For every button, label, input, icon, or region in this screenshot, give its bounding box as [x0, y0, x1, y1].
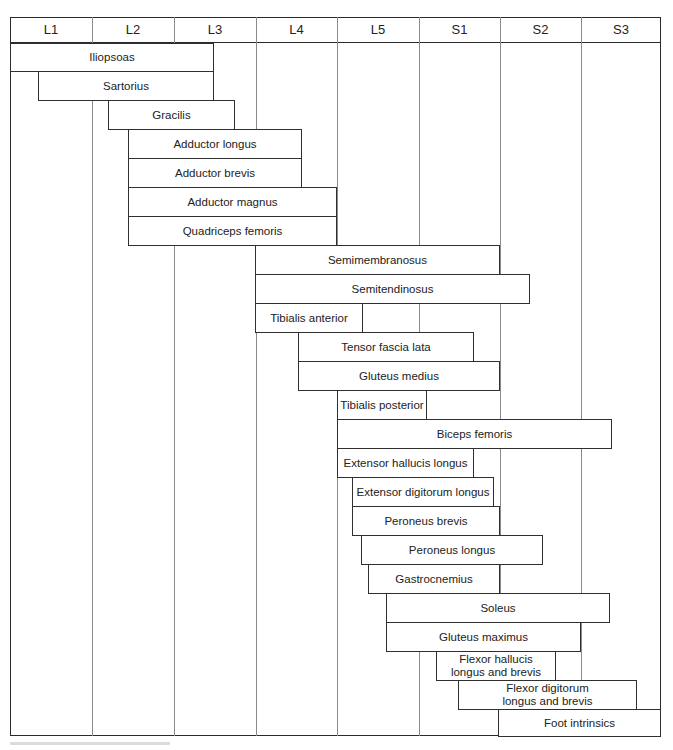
header-cell-s3: S3 [581, 17, 661, 43]
grid-line [256, 17, 257, 736]
muscle-label: Flexor digitorum longus and brevis [502, 682, 592, 708]
muscle-bar: Tibialis posterior [337, 390, 427, 420]
muscle-bar: Adductor longus [128, 129, 302, 159]
muscle-bar: Adductor brevis [128, 158, 302, 188]
muscle-label: Sartorius [103, 80, 149, 93]
muscle-bar: Tensor fascia lata [298, 332, 474, 362]
muscle-bar: Extensor hallucis longus [337, 448, 474, 478]
muscle-label: Gluteus medius [359, 370, 439, 383]
muscle-label: Iliopsoas [89, 51, 134, 64]
muscle-label: Adductor longus [173, 138, 256, 151]
muscle-bar: Soleus [386, 593, 610, 623]
muscle-label: Soleus [480, 602, 515, 615]
muscle-label: Peroneus brevis [384, 515, 467, 528]
header-cell-s2: S2 [500, 17, 581, 43]
muscle-bar: Foot intrinsics [498, 709, 661, 737]
muscle-label: Tensor fascia lata [341, 341, 431, 354]
muscle-bar: Adductor magnus [128, 187, 337, 217]
muscle-bar: Gluteus maximus [386, 622, 581, 652]
muscle-bar: Flexor hallucis longus and brevis [436, 651, 556, 681]
muscle-label: Biceps femoris [437, 428, 512, 441]
muscle-label: Gluteus maximus [439, 631, 528, 644]
muscle-bar: Tibialis anterior [255, 303, 363, 333]
header-cell-l3: L3 [174, 17, 256, 43]
header-cell-l5: L5 [337, 17, 419, 43]
figure-caption-faint [10, 742, 170, 745]
muscle-label: Tibialis anterior [270, 312, 348, 325]
muscle-bar: Peroneus brevis [352, 506, 500, 536]
muscle-label: Peroneus longus [409, 544, 495, 557]
muscle-bar: Gastrocnemius [368, 564, 500, 594]
header-cell-s1: S1 [419, 17, 500, 43]
muscle-bar: Semitendinosus [255, 274, 530, 304]
muscle-bar: Peroneus longus [361, 535, 543, 565]
muscle-label: Tibialis posterior [340, 399, 423, 412]
muscle-label: Foot intrinsics [544, 717, 615, 730]
muscle-label: Flexor hallucis longus and brevis [451, 653, 541, 679]
muscle-label: Adductor magnus [187, 196, 277, 209]
muscle-bar: Quadriceps femoris [128, 216, 337, 246]
segmental-innervation-diagram: L1 L2 L3 L4 L5 S1 S2 S3 IliopsoasSartori… [0, 0, 673, 750]
muscle-label: Adductor brevis [175, 167, 255, 180]
muscle-bar: Flexor digitorum longus and brevis [458, 680, 637, 710]
header-cell-l4: L4 [256, 17, 337, 43]
muscle-label: Semitendinosus [352, 283, 434, 296]
muscle-label: Quadriceps femoris [183, 225, 283, 238]
muscle-label: Extensor hallucis longus [343, 457, 467, 470]
muscle-label: Extensor digitorum longus [357, 486, 490, 499]
muscle-bar: Gracilis [108, 100, 235, 130]
muscle-bar: Extensor digitorum longus [352, 477, 494, 507]
muscle-label: Gracilis [152, 109, 190, 122]
grid-line [92, 17, 93, 736]
muscle-label: Gastrocnemius [395, 573, 472, 586]
muscle-label: Semimembranosus [328, 254, 427, 267]
muscle-bar: Biceps femoris [337, 419, 612, 449]
muscle-bar: Sartorius [38, 71, 214, 101]
muscle-bar: Iliopsoas [10, 43, 214, 72]
muscle-bar: Gluteus medius [298, 361, 500, 391]
header-cell-l1: L1 [10, 17, 92, 43]
grid-line [581, 17, 582, 736]
header-cell-l2: L2 [92, 17, 174, 43]
muscle-bar: Semimembranosus [255, 245, 500, 275]
